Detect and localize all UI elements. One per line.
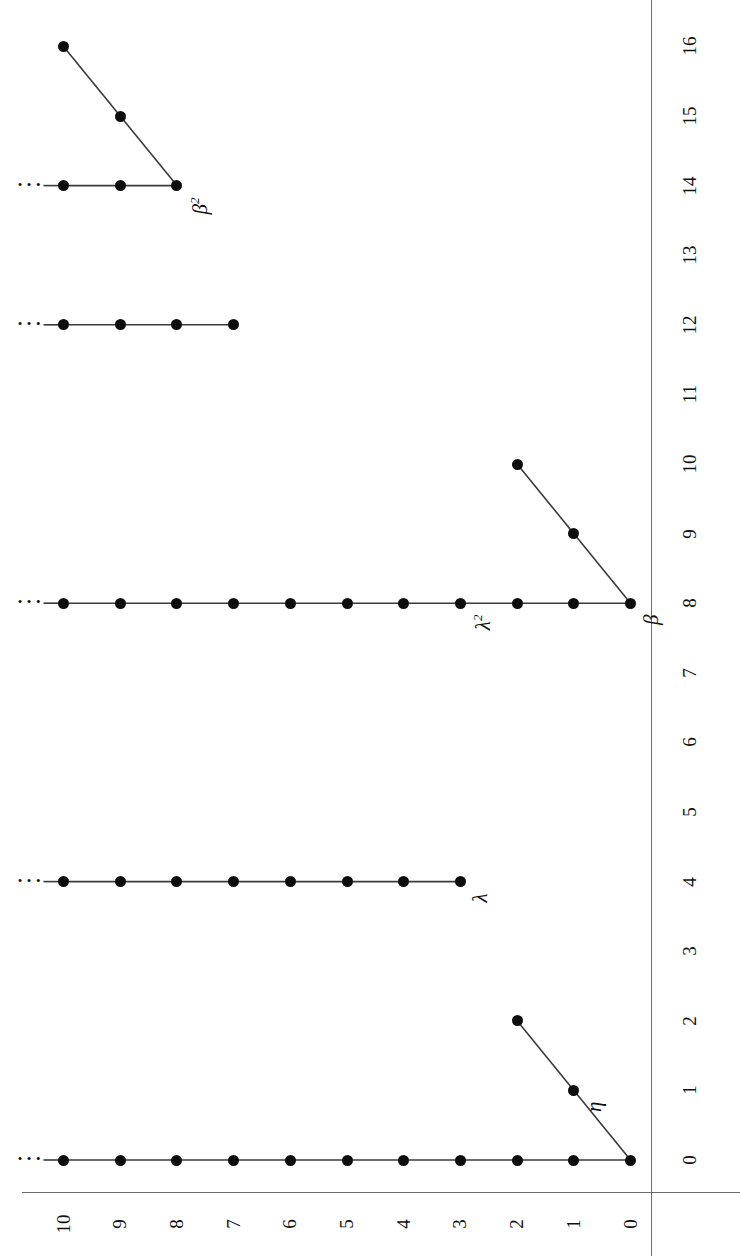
index-tick-1: 1 xyxy=(680,1070,700,1110)
lambda-cluster-dot-1 xyxy=(398,876,409,887)
eta-cluster-dot-2 xyxy=(512,1015,523,1026)
twelve-cluster-ellipsis: • • • xyxy=(18,317,42,330)
value-tick-4: 4 xyxy=(394,1204,414,1244)
value-tick-7: 7 xyxy=(224,1204,244,1244)
value-tick-9: 9 xyxy=(110,1204,130,1244)
beta2-cluster-dot-0 xyxy=(171,180,182,191)
eta-cluster-dot-9 xyxy=(228,1155,239,1166)
lambda-cluster-dot-3 xyxy=(285,876,296,887)
beta-cluster-dot-6 xyxy=(398,598,409,609)
annotation-lambda-base: λ xyxy=(468,893,492,902)
twelve-cluster-dot-2 xyxy=(115,319,126,330)
beta2-cluster-ellipsis: • • • xyxy=(18,178,42,191)
beta2-cluster-dot-1 xyxy=(115,111,126,122)
value-tick-10: 10 xyxy=(54,1204,74,1244)
annotation-lambda: λ xyxy=(470,893,491,902)
value-tick-1: 1 xyxy=(564,1204,584,1244)
beta2-cluster-dot-3 xyxy=(115,180,126,191)
beta-cluster-dot-7 xyxy=(342,598,353,609)
index-tick-15: 15 xyxy=(680,96,700,136)
lambda-cluster-dot-6 xyxy=(115,876,126,887)
index-tick-6: 6 xyxy=(680,722,700,762)
index-tick-5: 5 xyxy=(680,792,700,832)
beta-cluster-dot-3 xyxy=(568,598,579,609)
eta-cluster-dot-4 xyxy=(512,1155,523,1166)
value-tick-8: 8 xyxy=(167,1204,187,1244)
beta-cluster-dot-4 xyxy=(512,598,523,609)
index-tick-14: 14 xyxy=(680,166,700,206)
beta-cluster-dot-0 xyxy=(625,598,636,609)
value-tick-6: 6 xyxy=(280,1204,300,1244)
index-tick-13: 13 xyxy=(680,235,700,275)
value-axis-rule xyxy=(22,1192,740,1193)
index-tick-9: 9 xyxy=(680,514,700,554)
index-tick-3: 3 xyxy=(680,931,700,971)
eta-cluster-dot-7 xyxy=(342,1155,353,1166)
lambda-cluster-ellipsis: • • • xyxy=(18,874,42,887)
index-tick-16: 16 xyxy=(680,26,700,66)
eta-cluster-dot-6 xyxy=(398,1155,409,1166)
annotation-lambda2-base: λ xyxy=(471,621,495,630)
index-tick-10: 10 xyxy=(680,444,700,484)
annotation-lambda2: λ2 xyxy=(473,615,494,631)
beta-cluster-dot-10 xyxy=(171,598,182,609)
lambda-cluster-dot-7 xyxy=(58,876,69,887)
twelve-cluster-dot-3 xyxy=(58,319,69,330)
lambda-cluster-dot-4 xyxy=(228,876,239,887)
eta-cluster-dot-11 xyxy=(115,1155,126,1166)
index-tick-0: 0 xyxy=(680,1140,700,1180)
beta-cluster-dot-8 xyxy=(285,598,296,609)
annotation-beta2-exponent: 2 xyxy=(187,197,202,204)
value-tick-5: 5 xyxy=(337,1204,357,1244)
eta-cluster-dot-12 xyxy=(58,1155,69,1166)
annotation-lambda2-exponent: 2 xyxy=(470,615,485,622)
eta-cluster-dot-8 xyxy=(285,1155,296,1166)
value-tick-3: 3 xyxy=(450,1204,470,1244)
beta-cluster-ellipsis: • • • xyxy=(18,595,42,608)
annotation-eta: η xyxy=(584,1102,605,1112)
figure-canvas: • • •• • •• • •• • •• • • ηλβλ2β2 109876… xyxy=(0,0,740,1256)
annotation-beta2-base: β xyxy=(188,204,212,214)
annotation-beta: β xyxy=(641,615,662,625)
index-tick-12: 12 xyxy=(680,305,700,345)
eta-cluster-dot-5 xyxy=(455,1155,466,1166)
beta-cluster-dot-5 xyxy=(455,598,466,609)
beta2-cluster-dot-2 xyxy=(58,41,69,52)
twelve-cluster-dot-1 xyxy=(171,319,182,330)
annotation-beta2: β2 xyxy=(190,197,211,214)
annotation-eta-base: η xyxy=(582,1102,606,1112)
beta-cluster-dot-12 xyxy=(58,598,69,609)
value-tick-2: 2 xyxy=(507,1204,527,1244)
index-tick-8: 8 xyxy=(680,583,700,623)
eta-cluster-dot-0 xyxy=(625,1155,636,1166)
beta-cluster-dot-9 xyxy=(228,598,239,609)
eta-cluster-dot-3 xyxy=(568,1155,579,1166)
eta-cluster-dot-10 xyxy=(171,1155,182,1166)
series-links xyxy=(0,0,740,1256)
beta-cluster-dot-2 xyxy=(512,459,523,470)
value-tick-0: 0 xyxy=(621,1204,641,1244)
lambda-cluster-dot-0 xyxy=(455,876,466,887)
eta-cluster-dot-1 xyxy=(568,1085,579,1096)
lambda-cluster-dot-5 xyxy=(171,876,182,887)
eta-cluster-ellipsis: • • • xyxy=(18,1152,42,1165)
annotation-beta-base: β xyxy=(639,615,663,625)
index-tick-7: 7 xyxy=(680,653,700,693)
index-tick-2: 2 xyxy=(680,1001,700,1041)
index-axis-rule xyxy=(651,0,652,1256)
index-tick-4: 4 xyxy=(680,862,700,902)
beta-cluster-dot-11 xyxy=(115,598,126,609)
index-tick-11: 11 xyxy=(680,374,700,414)
lambda-cluster-dot-2 xyxy=(342,876,353,887)
twelve-cluster-dot-0 xyxy=(228,319,239,330)
beta-cluster-dot-1 xyxy=(568,528,579,539)
beta2-cluster-dot-4 xyxy=(58,180,69,191)
